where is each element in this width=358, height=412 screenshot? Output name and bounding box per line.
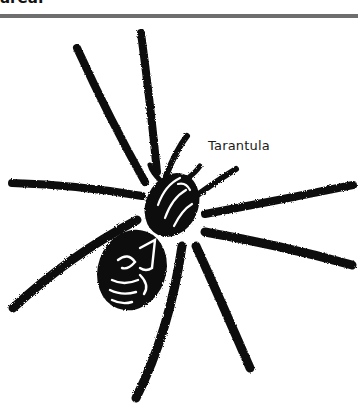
tarantula-illustration bbox=[0, 20, 358, 412]
header-text-cropped: area: bbox=[0, 0, 44, 6]
figure-label: Tarantula bbox=[208, 138, 270, 153]
section-divider bbox=[0, 14, 358, 18]
